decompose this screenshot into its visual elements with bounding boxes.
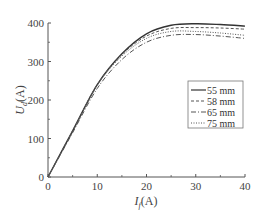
x-axis-label: If(A) [134,194,158,210]
legend-item-label: 55 mm [207,85,235,96]
x-tick-label: 20 [141,180,153,192]
y-tick-label: 200 [28,94,45,106]
legend-item-label: 75 mm [207,118,235,129]
legend-item-label: 58 mm [207,96,235,107]
x-tick-label: 40 [240,180,252,192]
line-chart: 0100200300400 010203040 Ud(A) If(A) 55 m… [0,0,257,213]
x-tick-label: 0 [45,180,51,192]
legend: 55 mm58 mm65 mm75 mm [188,81,243,129]
y-tick-label: 300 [28,56,45,68]
x-tick-label: 30 [190,180,202,192]
y-ticks: 0100200300400 [28,17,52,183]
y-tick-label: 100 [28,133,45,145]
y-axis-label: Ud(A) [13,85,29,114]
x-tick-label: 10 [92,180,104,192]
legend-item-label: 65 mm [207,107,235,118]
y-tick-label: 0 [39,171,45,183]
y-tick-label: 400 [28,17,45,29]
